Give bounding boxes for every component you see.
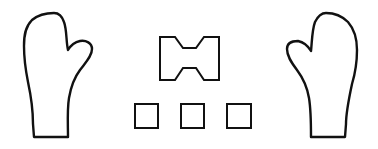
drawing-canvas xyxy=(0,0,378,149)
left-mitten-icon xyxy=(24,13,92,137)
right-mitten-icon xyxy=(287,13,357,137)
square-icon-2 xyxy=(181,104,204,128)
square-icon-3 xyxy=(227,104,251,128)
line-drawing xyxy=(0,0,378,149)
square-icon-1 xyxy=(135,104,158,128)
bow-tie-icon xyxy=(160,37,219,80)
